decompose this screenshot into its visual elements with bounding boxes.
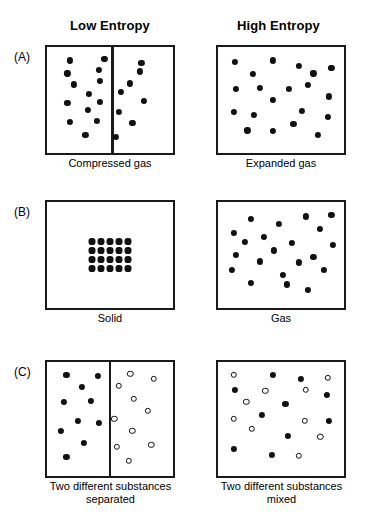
caption-solid: Solid: [45, 312, 175, 325]
particle-filled: [118, 89, 124, 95]
particle-filled: [257, 258, 263, 264]
particle-filled: [305, 82, 311, 88]
particle-filled: [326, 93, 332, 99]
particle-filled: [271, 247, 277, 253]
particle-filled: [310, 70, 316, 76]
particle-field-expanded-gas: [218, 47, 344, 153]
particle-open: [243, 399, 249, 405]
particle-filled: [58, 428, 64, 434]
particle-filled: [231, 230, 237, 236]
particle-filled: [269, 452, 275, 458]
particle-filled: [290, 121, 296, 127]
particle-filled: [231, 109, 237, 115]
particle-filled: [141, 98, 147, 104]
particle-open: [231, 372, 237, 378]
particle-filled: [64, 100, 70, 106]
particle-filled: [270, 128, 276, 134]
particle-filled: [61, 399, 67, 405]
entropy-diagram-figure: Low Entropy High Entropy (A) Compressed …: [0, 0, 375, 528]
particle-filled: [296, 259, 302, 265]
particle-filled: [328, 65, 334, 71]
particle-filled: [98, 256, 104, 262]
particle-filled: [85, 107, 91, 113]
particle-open: [127, 371, 133, 377]
particle-filled: [242, 239, 248, 245]
particle-open: [111, 416, 117, 422]
particle-filled: [298, 376, 304, 382]
particle-filled: [63, 454, 69, 460]
particle-open: [116, 383, 122, 389]
box-solid: [45, 200, 175, 310]
particle-filled: [250, 71, 256, 77]
particle-filled: [82, 132, 88, 138]
particle-filled: [270, 97, 276, 103]
caption-compressed-gas: Compressed gas: [45, 157, 175, 170]
particle-open: [301, 418, 307, 424]
particle-filled: [244, 127, 250, 133]
particle-filled: [328, 211, 334, 217]
column-header-high-entropy: High Entropy: [211, 18, 346, 33]
particle-filled: [232, 59, 238, 65]
particle-filled: [96, 67, 102, 73]
box-substances-mixed: [216, 360, 346, 478]
caption-substances-separated: Two different substances separated: [33, 480, 188, 505]
particle-filled: [305, 287, 311, 293]
solid-lattice: [88, 237, 133, 273]
particle-filled: [284, 281, 290, 287]
particle-filled: [229, 267, 235, 273]
particle-filled: [107, 265, 113, 271]
particle-field-compressed-gas: [47, 47, 173, 153]
particle-filled: [89, 265, 95, 271]
particle-filled: [63, 372, 69, 378]
particle-filled: [324, 392, 330, 398]
particle-open: [145, 408, 151, 414]
box-gas: [216, 200, 346, 310]
particle-filled: [107, 247, 113, 253]
particle-filled: [270, 372, 276, 378]
particle-filled: [89, 256, 95, 262]
particle-filled: [248, 216, 254, 222]
particle-filled: [98, 238, 104, 244]
particle-open: [130, 396, 136, 402]
particle-filled: [107, 238, 113, 244]
particle-open: [302, 387, 308, 393]
particle-filled: [233, 86, 239, 92]
particle-filled: [107, 256, 113, 262]
particle-filled: [315, 132, 321, 138]
particle-filled: [285, 433, 291, 439]
box-compressed-gas: [45, 45, 175, 155]
particle-filled: [67, 119, 73, 125]
particle-filled: [231, 446, 237, 452]
particle-filled: [248, 280, 254, 286]
particle-filled: [233, 252, 239, 258]
particle-filled: [93, 118, 99, 124]
particle-filled: [97, 78, 103, 84]
particle-filled: [71, 81, 77, 87]
particle-field-solid-lattice: [47, 202, 173, 308]
panel-label-a: (A): [14, 50, 30, 64]
particle-open: [148, 442, 154, 448]
particle-filled: [310, 254, 316, 260]
particle-filled: [81, 440, 87, 446]
particle-open: [150, 376, 156, 382]
particle-filled: [286, 86, 292, 92]
particle-filled: [125, 238, 131, 244]
particle-open: [126, 458, 132, 464]
particle-filled: [299, 108, 305, 114]
particle-filled: [303, 213, 309, 219]
particle-filled: [101, 56, 107, 62]
particle-filled: [67, 57, 73, 63]
particle-filled: [116, 238, 122, 244]
particle-open: [129, 428, 135, 434]
particle-filled: [96, 420, 102, 426]
particle-open: [114, 444, 120, 450]
box-expanded-gas: [216, 45, 346, 155]
particle-filled: [270, 57, 276, 63]
caption-substances-mixed: Two different substances mixed: [204, 480, 359, 505]
particle-filled: [129, 120, 135, 126]
particle-filled: [296, 63, 302, 69]
particle-open: [262, 388, 268, 394]
panel-label-b: (B): [14, 205, 30, 219]
particle-filled: [89, 238, 95, 244]
particle-filled: [86, 90, 92, 96]
